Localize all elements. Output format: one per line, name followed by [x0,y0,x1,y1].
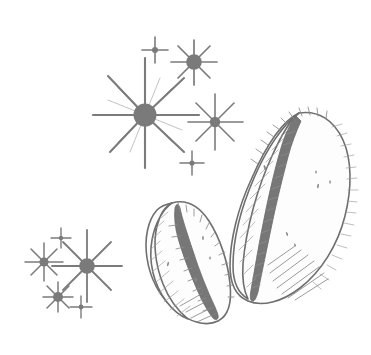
small-cross-bottom-core [189,160,194,165]
small-cross-top-core [152,47,158,53]
large-star-core [134,104,157,127]
tiny-cross-top-core [59,236,63,240]
medium-star-top-right-icon [171,40,217,85]
lower-main-star-core [79,258,95,274]
cowrie-shell-drawing [0,0,371,355]
lower-side-star-core [39,257,48,266]
medium-star-r-core [210,117,220,127]
lower-small-star-icon [43,282,73,312]
illustration-canvas: Two cowrie shells with starbursts pencil… [0,0,371,355]
lower-small-star-core [53,292,63,302]
tiny-cross-bottom-core [79,305,84,310]
lower-side-star-icon [25,243,63,281]
medium-star-tr-core [186,54,202,70]
